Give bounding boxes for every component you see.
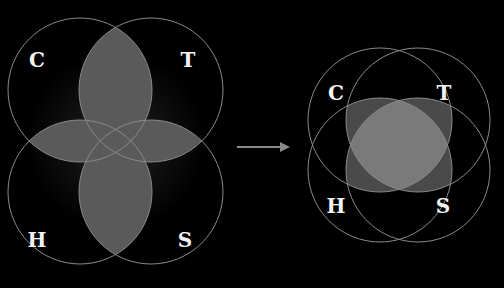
label-t: T (437, 83, 452, 103)
label-s: S (178, 230, 192, 250)
label-t: T (181, 50, 196, 70)
label-c: C (328, 83, 344, 103)
label-h: H (327, 196, 346, 216)
right-arrow-icon (237, 142, 290, 152)
label-s: S (436, 196, 450, 216)
venn-transition-diagram: C T H S C T H S (0, 0, 504, 288)
diagram-graphics (0, 0, 504, 288)
label-c: C (29, 50, 45, 70)
after-venn (300, 40, 500, 260)
label-h: H (28, 230, 47, 250)
